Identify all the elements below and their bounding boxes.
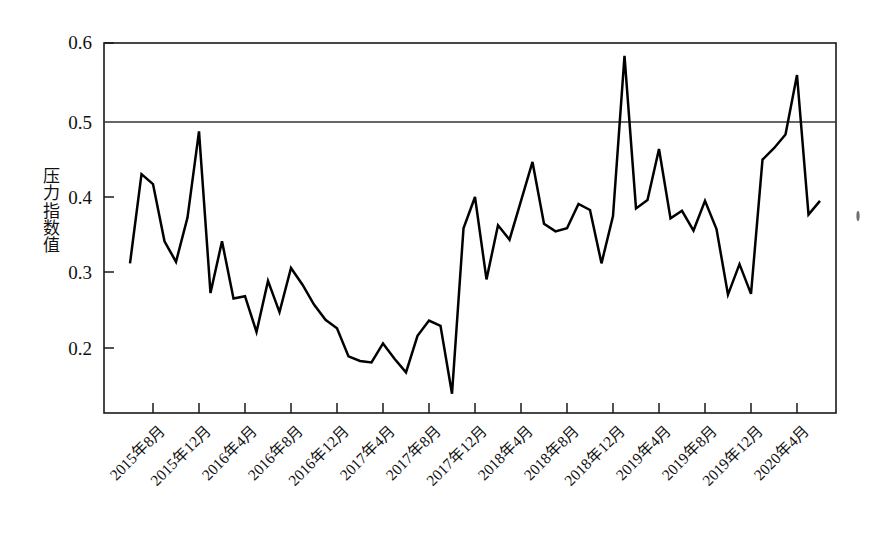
chart-figure: 压 力 指 数 值 0.6 0.5 0.4 0.3 0.2 2015年8月: [0, 0, 884, 536]
x-tick-label: 2020年4月: [716, 422, 812, 518]
x-axis-tick-labels: 2015年8月2015年12月2016年4月2016年8月2016年12月201…: [0, 0, 884, 536]
